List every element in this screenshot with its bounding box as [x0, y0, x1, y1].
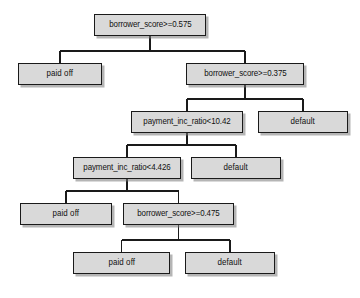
tree-node-leaf: paid off	[18, 63, 102, 85]
tree-edges	[0, 0, 360, 298]
tree-node-leaf: paid off	[73, 252, 170, 274]
tree-node-split: payment_inc_ratio<10.42	[131, 111, 243, 133]
tree-node-label: paid off	[108, 259, 135, 267]
decision-tree-diagram: borrower_score>=0.575paid offborrower_sc…	[0, 0, 360, 298]
tree-node-label: borrower_score>=0.575	[109, 21, 191, 29]
tree-node-label: default	[291, 118, 316, 126]
tree-node-split: payment_inc_ratio<4.426	[73, 157, 181, 179]
tree-node-label: payment_inc_ratio<4.426	[83, 164, 170, 172]
tree-node-leaf: default	[258, 111, 348, 133]
tree-node-label: payment_inc_ratio<10.42	[143, 118, 230, 126]
tree-node-leaf: paid off	[20, 203, 112, 225]
tree-node-split: borrower_score>=0.475	[123, 203, 234, 225]
tree-node-label: borrower_score>=0.375	[204, 70, 286, 78]
tree-node-leaf: default	[191, 157, 281, 179]
tree-node-split: borrower_score>=0.575	[94, 14, 206, 36]
tree-node-label: default	[218, 259, 243, 267]
tree-node-label: paid off	[47, 70, 74, 78]
tree-node-label: default	[224, 164, 249, 172]
tree-node-label: borrower_score>=0.475	[137, 210, 219, 218]
tree-node-split: borrower_score>=0.375	[186, 63, 304, 85]
tree-node-label: paid off	[53, 210, 80, 218]
tree-node-leaf: default	[185, 252, 275, 274]
